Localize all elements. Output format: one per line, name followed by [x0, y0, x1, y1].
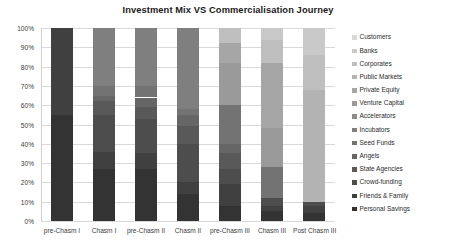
legend-item-label: Accelerators [360, 113, 396, 120]
legend-item-label: Incubators [360, 127, 390, 134]
legend-item-label: Banks [360, 48, 378, 55]
legend-item[interactable]: Customers [352, 31, 456, 44]
legend-item-label: Personal Savings [360, 206, 411, 213]
legend-swatch-icon [352, 141, 357, 146]
x-axis-tick-label: pre-Chasm II [125, 227, 167, 234]
legend-swatch-icon [352, 49, 357, 54]
legend-item[interactable]: Personal Savings [352, 202, 456, 215]
legend-item[interactable]: Banks [352, 44, 456, 57]
legend-swatch-icon [352, 128, 357, 133]
legend-item-label: State Agencies [360, 166, 403, 173]
legend-item-label: Crowd-funding [360, 179, 402, 186]
legend-item-label: Private Equity [360, 87, 400, 94]
legend-item[interactable]: Crowd-funding [352, 176, 456, 189]
legend-swatch-icon [352, 207, 357, 212]
chart-legend: CustomersBanksCorporatesPublic MarketsPr… [352, 31, 456, 216]
chart-container: Investment Mix VS Commercialisation Jour… [0, 0, 456, 251]
legend-item[interactable]: Incubators [352, 123, 456, 136]
legend-swatch-icon [352, 180, 357, 185]
legend-item[interactable]: Friends & Family [352, 189, 456, 202]
legend-item-label: Venture Capital [360, 100, 404, 107]
legend-item[interactable]: State Agencies [352, 163, 456, 176]
legend-swatch-icon [352, 114, 357, 119]
legend-item-label: Corporates [360, 61, 392, 68]
legend-item[interactable]: Private Equity [352, 84, 456, 97]
legend-swatch-icon [352, 62, 357, 67]
legend-item-label: Friends & Family [360, 193, 409, 200]
legend-item[interactable]: Angels [352, 150, 456, 163]
legend-item-label: Seed Funds [360, 140, 395, 147]
x-axis-tick-label: Chasm III [251, 227, 293, 234]
x-axis-tick-label: Chasm II [167, 227, 209, 234]
x-axis-tick-label: pre-Chasm III [209, 227, 251, 234]
legend-swatch-icon [352, 88, 357, 93]
legend-item[interactable]: Seed Funds [352, 137, 456, 150]
legend-item[interactable]: Corporates [352, 57, 456, 70]
legend-item-label: Customers [360, 34, 391, 41]
legend-item[interactable]: Accelerators [352, 110, 456, 123]
legend-item-label: Angels [360, 153, 380, 160]
legend-item-label: Public Markets [360, 74, 403, 81]
legend-swatch-icon [352, 35, 357, 40]
legend-item[interactable]: Public Markets [352, 71, 456, 84]
x-axis-tick-label: Chasm I [83, 227, 125, 234]
legend-swatch-icon [352, 154, 357, 159]
legend-swatch-icon [352, 101, 357, 106]
legend-swatch-icon [352, 167, 357, 172]
x-axis-tick-label: Post Chasm III [293, 227, 335, 234]
legend-swatch-icon [352, 194, 357, 199]
legend-item[interactable]: Venture Capital [352, 97, 456, 110]
x-axis-tick-label: pre-Chasm I [41, 227, 83, 234]
legend-swatch-icon [352, 75, 357, 80]
